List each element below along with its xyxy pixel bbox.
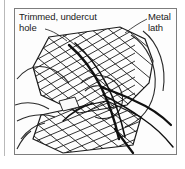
callout-metal-lath-line2: lath bbox=[148, 22, 163, 33]
column-divider-rule bbox=[4, 0, 5, 156]
callout-trimmed-hole-line1: Trimmed, undercut bbox=[19, 11, 97, 22]
figure-page: Trimmed, undercut hole Metal lath bbox=[0, 0, 185, 169]
callout-trimmed-hole-line2: hole bbox=[19, 22, 37, 33]
trimmed-hole-edge bbox=[59, 97, 79, 111]
callout-metal-lath-line1: Metal bbox=[148, 11, 171, 22]
illustration-panel: Trimmed, undercut hole Metal lath bbox=[14, 8, 177, 155]
